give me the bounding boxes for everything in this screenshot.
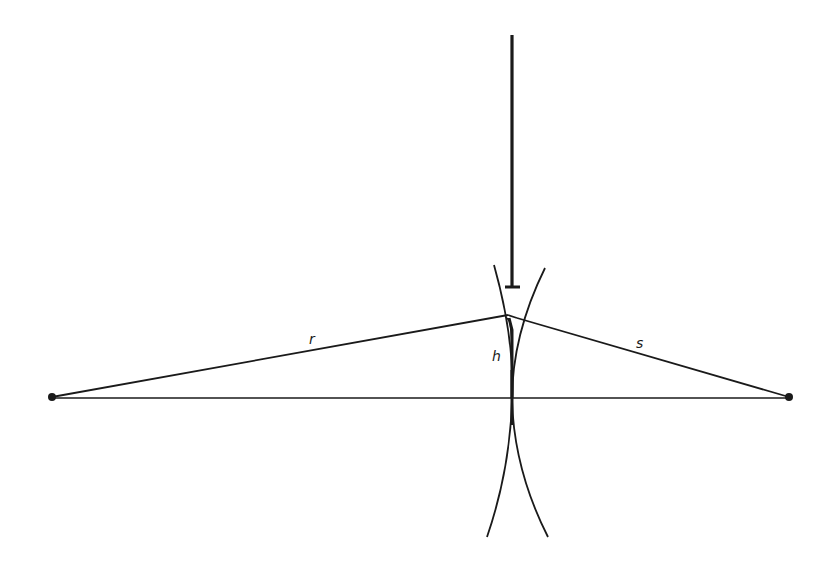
arc-left bbox=[487, 265, 512, 537]
label-s: s bbox=[636, 336, 643, 350]
left-point-dot bbox=[48, 393, 56, 401]
right-point-dot bbox=[785, 393, 793, 401]
label-r: r bbox=[309, 332, 315, 346]
arc-right bbox=[512, 268, 548, 537]
side-r bbox=[52, 315, 508, 397]
vertical-rod bbox=[505, 35, 520, 287]
diagram-canvas bbox=[0, 0, 840, 582]
apex-kink bbox=[508, 315, 517, 318]
side-s bbox=[517, 318, 789, 397]
label-h: h bbox=[492, 349, 501, 363]
